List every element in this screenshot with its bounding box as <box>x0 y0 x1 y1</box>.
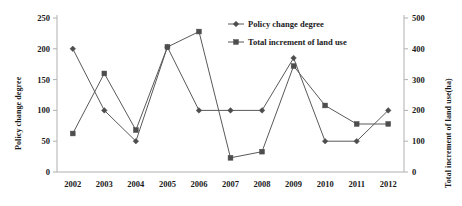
x-axis-ticks: 2002200320042005200620072008200920102011… <box>64 179 396 189</box>
y-axis-right-ticks: 0100200300400500 <box>404 13 425 177</box>
series-marker <box>291 64 296 69</box>
x-axis-tick-label: 2005 <box>159 179 176 189</box>
y-axis-right-tick-label: 0 <box>412 167 416 177</box>
y-axis-left-tick-label: 100 <box>37 105 50 115</box>
legend-label: Policy change degree <box>248 19 324 29</box>
y-axis-left-tick-label: 150 <box>37 75 50 85</box>
y-axis-left-tick-label: 200 <box>37 44 50 54</box>
chart-figure: Policy change degree Total increment of … <box>0 0 462 206</box>
x-axis-tick-label: 2003 <box>96 179 113 189</box>
series-marker <box>354 122 359 127</box>
series-marker <box>197 29 202 34</box>
series-marker <box>102 71 107 76</box>
legend-marker <box>234 40 239 45</box>
series-marker <box>291 55 297 61</box>
y-axis-left-ticks: 050100150200250 <box>37 13 57 177</box>
series-marker <box>322 138 328 144</box>
series-marker <box>165 45 170 50</box>
y-axis-right-tick-label: 200 <box>412 105 425 115</box>
y-axis-left-tick-label: 50 <box>42 136 51 146</box>
series-marker <box>323 103 328 108</box>
x-axis-tick-label: 2006 <box>190 179 207 189</box>
chart-legend: Policy change degreeTotal increment of l… <box>228 19 347 47</box>
series-marker <box>260 149 265 154</box>
legend-label: Total increment of land use <box>248 37 347 47</box>
x-axis-tick-label: 2010 <box>317 179 334 189</box>
series-marker <box>196 108 202 114</box>
series-marker <box>228 108 234 114</box>
y-axis-left-tick-label: 0 <box>46 167 50 177</box>
y-axis-right-tick-label: 100 <box>412 136 425 146</box>
series-marker <box>259 108 265 114</box>
series-line <box>73 32 388 158</box>
x-axis-tick-label: 2002 <box>64 179 81 189</box>
chart-plot-area: 050100150200250 0100200300400500 2002200… <box>0 0 462 206</box>
y-axis-right-tick-label: 300 <box>412 75 425 85</box>
x-axis-tick-label: 2009 <box>285 179 302 189</box>
series-marker <box>70 131 75 136</box>
series-marker <box>70 46 76 52</box>
x-axis-tick-label: 2007 <box>222 179 240 189</box>
y-axis-right-tick-label: 500 <box>412 13 425 23</box>
series-line <box>73 47 388 141</box>
y-axis-right-tick-label: 400 <box>412 44 425 54</box>
y-axis-left-tick-label: 250 <box>37 13 50 23</box>
series-marker <box>133 128 138 133</box>
x-axis-tick-label: 2012 <box>380 179 397 189</box>
x-axis-tick-label: 2011 <box>348 179 365 189</box>
series-marker <box>386 122 391 127</box>
series-marker <box>228 155 233 160</box>
x-axis-tick-label: 2008 <box>254 179 271 189</box>
x-axis-tick-label: 2004 <box>127 179 145 189</box>
series-group <box>70 29 391 160</box>
legend-marker <box>233 21 239 27</box>
